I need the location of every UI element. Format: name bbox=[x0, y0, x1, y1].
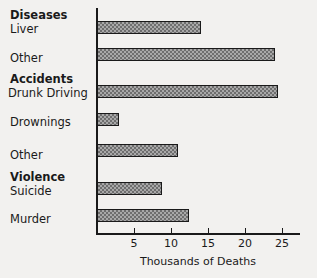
bar-chart: 5 10 15 20 25 Thousands of Deaths Diseas… bbox=[0, 0, 317, 278]
x-tick-label-20: 20 bbox=[238, 237, 252, 250]
x-tick-label-10: 10 bbox=[164, 237, 178, 250]
group-label-diseases: Diseases bbox=[10, 8, 94, 22]
bar-diseases-other bbox=[97, 48, 275, 61]
x-tick-label-5: 5 bbox=[131, 237, 138, 250]
group-label-accidents: Accidents bbox=[10, 72, 94, 86]
bar-murder bbox=[97, 209, 189, 222]
series-label-liver: Liver bbox=[10, 22, 94, 36]
group-label-violence: Violence bbox=[10, 170, 94, 184]
bar-liver bbox=[97, 21, 201, 34]
bar-suicide bbox=[97, 182, 162, 195]
x-tick-10 bbox=[171, 228, 172, 234]
x-tick-label-25: 25 bbox=[275, 237, 289, 250]
x-tick-label-15: 15 bbox=[201, 237, 215, 250]
bar-drownings bbox=[97, 113, 119, 126]
plot-area: 5 10 15 20 25 Thousands of Deaths Diseas… bbox=[0, 0, 317, 278]
series-label-drownings: Drownings bbox=[10, 115, 94, 129]
series-label-diseases-other: Other bbox=[10, 51, 94, 65]
x-tick-25 bbox=[282, 228, 283, 234]
series-label-murder: Murder bbox=[10, 212, 94, 226]
series-label-accidents-other: Other bbox=[10, 148, 94, 162]
bar-accidents-other bbox=[97, 144, 178, 157]
bar-drunk-driving bbox=[97, 85, 278, 98]
series-label-drunk-driving: Drunk Driving bbox=[8, 86, 96, 100]
x-axis-line bbox=[96, 233, 300, 235]
x-tick-20 bbox=[245, 228, 246, 234]
x-axis-title: Thousands of Deaths bbox=[96, 255, 300, 268]
x-tick-15 bbox=[208, 228, 209, 234]
series-label-suicide: Suicide bbox=[10, 184, 94, 198]
x-tick-5 bbox=[134, 228, 135, 234]
